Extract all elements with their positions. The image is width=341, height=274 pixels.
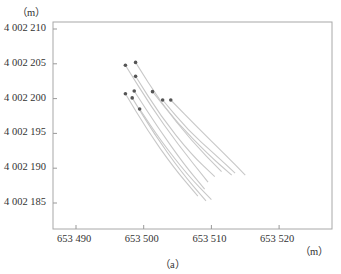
start-point-marker — [134, 61, 138, 65]
y-axis-unit-label: （m） — [17, 4, 45, 19]
trajectory-line — [136, 62, 222, 171]
x-tick-label: 653 490 — [57, 233, 91, 244]
start-point-marker — [130, 96, 134, 100]
start-point-marker — [124, 92, 128, 96]
start-point-marker — [132, 89, 136, 93]
start-point-marker — [138, 107, 142, 111]
trajectory-line — [171, 100, 245, 175]
y-tick-label: 4 002 190 — [4, 161, 46, 172]
trajectory-line — [136, 76, 215, 176]
y-ticks — [53, 29, 57, 203]
x-tick-label: 653 500 — [125, 233, 159, 244]
start-point-marker — [151, 90, 155, 94]
y-tick-label: 4 002 185 — [4, 196, 46, 207]
x-tick-label: 653 520 — [260, 233, 294, 244]
start-point-marker — [169, 98, 173, 102]
start-point-marker — [161, 98, 165, 102]
trajectory-line — [140, 109, 212, 199]
figure-caption: （a） — [160, 256, 185, 271]
y-tick-label: 4 002 195 — [4, 126, 46, 137]
y-tick-label: 4 002 210 — [4, 22, 46, 33]
x-tick-label: 653 510 — [192, 233, 226, 244]
y-tick-label: 4 002 205 — [4, 57, 46, 68]
start-point-marker — [124, 63, 128, 67]
start-point-marker — [134, 75, 138, 79]
y-tick-label: 4 002 200 — [4, 92, 46, 103]
plot-frame — [53, 22, 332, 229]
x-axis-unit-label: （m） — [300, 243, 328, 258]
x-ticks — [76, 225, 279, 229]
trajectory-lines — [125, 62, 245, 201]
